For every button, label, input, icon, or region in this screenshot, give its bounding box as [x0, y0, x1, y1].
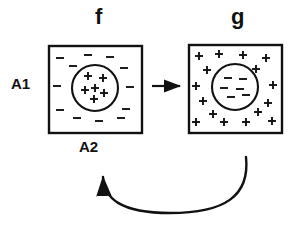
- box-g-outer-charge-10: [209, 110, 217, 118]
- box-g-outer-charge-0: [195, 52, 203, 60]
- box-f-inner-charge-4: [100, 89, 108, 97]
- box-g-outer-charge-6: [192, 82, 200, 90]
- charge-marks-group: [53, 50, 277, 126]
- box-g-outer-charge-1: [215, 50, 223, 58]
- box-f-inner-charge-1: [99, 74, 107, 82]
- box-group: [49, 45, 282, 133]
- arrow-group: [103, 86, 246, 213]
- box-g-outer-charge-12: [192, 118, 200, 126]
- box-f-inner-charge-3: [81, 86, 89, 94]
- box-g-outer-charge-9: [264, 99, 272, 107]
- box-g-outer-charge-7: [269, 81, 277, 89]
- box-f-inner-charge-5: [90, 95, 98, 103]
- box-g-circle: [212, 64, 258, 110]
- box-g-outer-charge-8: [199, 97, 207, 105]
- box-g-outer-charge-14: [242, 118, 250, 126]
- box-f-inner-charge-0: [84, 72, 92, 80]
- box-g-outer-charge-13: [220, 118, 228, 126]
- feedback-arrow: [103, 157, 246, 213]
- figure-canvas: f g A1 A2: [0, 0, 294, 226]
- box-g-outer-charge-3: [262, 54, 270, 62]
- diagram-svg: [0, 0, 294, 226]
- box-g-outer-charge-4: [203, 66, 211, 74]
- box-g-outer-charge-11: [254, 108, 262, 116]
- box-g-outer-charge-15: [268, 117, 276, 125]
- box-f-inner-charge-2: [91, 84, 99, 92]
- box-g-outer-charge-2: [239, 51, 247, 59]
